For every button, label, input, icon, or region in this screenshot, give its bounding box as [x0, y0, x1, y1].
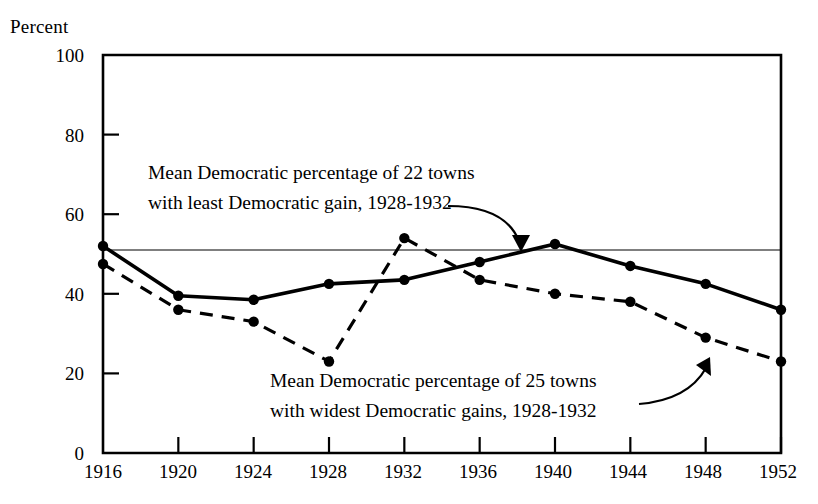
- data-point-marker: [98, 241, 108, 251]
- chart-figure: Percent 100 80 60 40 20 0 1916 1920 1924…: [0, 0, 818, 504]
- x-tick-marks: [178, 437, 781, 453]
- arrow-upper-curve: [448, 206, 519, 241]
- data-point-marker: [173, 291, 183, 301]
- data-point-marker: [550, 289, 560, 299]
- data-point-marker: [324, 356, 334, 366]
- series-path-solid: [103, 244, 781, 310]
- data-point-marker: [474, 257, 484, 267]
- data-point-marker: [324, 279, 334, 289]
- series-line-dashed: [103, 238, 781, 361]
- data-point-marker: [550, 239, 560, 249]
- data-point-marker: [248, 295, 258, 305]
- data-point-marker: [776, 305, 786, 315]
- series-markers: [98, 233, 786, 367]
- data-point-marker: [399, 233, 409, 243]
- data-point-marker: [98, 259, 108, 269]
- data-point-marker: [700, 279, 710, 289]
- data-point-marker: [248, 316, 258, 326]
- data-point-marker: [700, 332, 710, 342]
- annotation-arrows: [448, 206, 711, 404]
- data-point-marker: [399, 275, 409, 285]
- data-point-marker: [625, 297, 635, 307]
- data-point-marker: [776, 356, 786, 366]
- data-point-marker: [474, 275, 484, 285]
- series-path-dashed: [103, 238, 781, 361]
- plot-area: [0, 0, 818, 504]
- data-point-marker: [173, 305, 183, 315]
- arrow-lower-curve: [639, 368, 706, 404]
- series-line-solid: [103, 244, 781, 310]
- data-point-marker: [625, 261, 635, 271]
